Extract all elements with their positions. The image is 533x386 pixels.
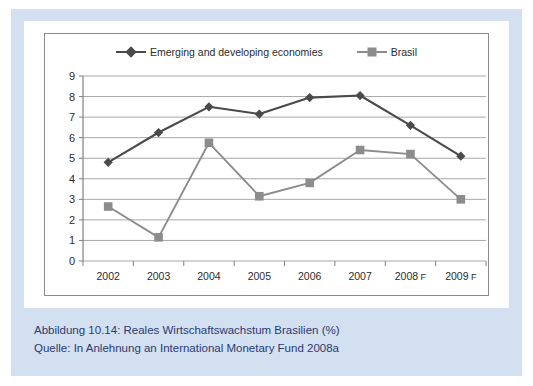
data-point-square [457,195,466,204]
x-axis-tick-labels: 2002200320042005200620072008 F2009 F [83,271,481,289]
data-point-diamond [406,121,415,130]
caption-line-title: Abbildung 10.14: Reales Wirtschaftswachs… [34,322,484,340]
y-tick-label: 5 [69,153,75,164]
chart-frame: Emerging and developing economies Brasil… [44,33,489,296]
y-tick-label: 6 [69,132,75,143]
data-point-diamond [355,91,364,100]
y-tick-label: 4 [69,173,75,184]
y-tick-label: 8 [69,91,75,102]
y-tick-label: 9 [69,71,75,82]
data-point-diamond [154,128,163,137]
x-tick-label: 2008 F [395,271,426,282]
y-axis-tick-labels: 0123456789 [53,76,75,261]
x-tick-label: 2003 [147,271,170,282]
data-point-diamond [456,152,465,161]
x-tick-label: 2005 [248,271,271,282]
y-tick-label: 1 [69,235,75,246]
data-point-diamond [204,102,213,111]
y-tick-label: 0 [69,256,75,267]
figure-caption: Abbildung 10.14: Reales Wirtschaftswachs… [34,322,484,358]
x-tick-label: 2007 [348,271,371,282]
data-point-square [104,202,113,211]
y-tick-label: 2 [69,214,75,225]
figure-root: Emerging and developing economies Brasil… [0,0,533,386]
data-point-square [406,150,415,159]
data-point-square [356,146,365,155]
data-point-diamond [305,93,314,102]
plot-svg [45,34,488,295]
y-tick-label: 3 [69,194,75,205]
x-tick-label: 2002 [97,271,120,282]
data-point-square [255,192,264,201]
x-tick-label: 2009 F [445,271,476,282]
x-tick-label: 2006 [298,271,321,282]
data-point-square [154,233,163,242]
data-point-diamond [104,158,113,167]
plot-area: 0123456789 2002200320042005200620072008 … [45,34,488,295]
y-tick-label: 7 [69,112,75,123]
data-point-square [205,139,214,148]
caption-line-source: Quelle: In Anlehnung an International Mo… [34,340,484,358]
data-point-square [305,179,314,188]
x-tick-label: 2004 [197,271,220,282]
